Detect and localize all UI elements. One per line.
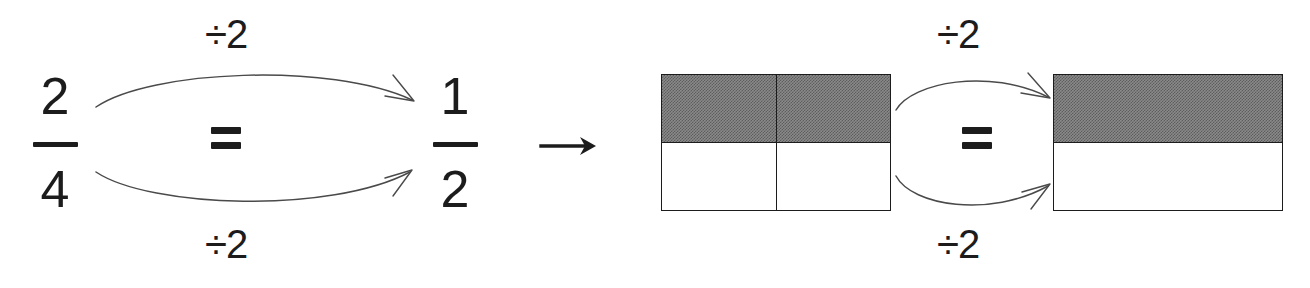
- transition-arrow: [541, 137, 596, 155]
- model-row-unshaded: [1054, 143, 1282, 210]
- left-top-divide-label: ÷2: [205, 14, 247, 54]
- model-cell-shaded-1: [1054, 75, 1282, 142]
- model-cell-shaded-2: [777, 75, 891, 142]
- fraction-equivalence-diagram: ÷2 2 4 1 2 ÷2 ÷2: [0, 0, 1310, 288]
- model-cell-shaded-1: [662, 75, 777, 142]
- model-row-shaded: [1054, 75, 1282, 143]
- numerator-divide-arrow: [96, 75, 414, 107]
- denominator-divide-arrow: [96, 170, 412, 201]
- left-fraction-bar: [33, 142, 78, 147]
- two-fourths-area-model: [661, 74, 891, 211]
- left-fraction-numerator: 2: [25, 70, 85, 122]
- right-top-divide-label: ÷2: [937, 14, 979, 54]
- left-bottom-divide-label: ÷2: [205, 224, 247, 264]
- right-bottom-divide-label: ÷2: [937, 224, 979, 264]
- symbolic-equals-sign: [211, 127, 241, 153]
- model-cell-unshaded-1: [1054, 143, 1282, 210]
- right-fraction-denominator: 2: [425, 163, 485, 215]
- model-columns-divide-arrow: [896, 73, 1050, 110]
- equals-bar-bottom: [962, 142, 992, 149]
- model-row-unshaded: [662, 143, 890, 210]
- left-fraction-denominator: 4: [25, 163, 85, 215]
- model-cell-unshaded-1: [662, 143, 777, 210]
- model-rows-divide-arrow: [896, 176, 1050, 209]
- right-fraction-bar: [433, 142, 478, 147]
- equals-bar-bottom: [211, 142, 241, 149]
- equals-bar-top: [211, 127, 241, 134]
- right-fraction-numerator: 1: [425, 70, 485, 122]
- one-half-area-model: [1053, 74, 1283, 211]
- visual-equals-sign: [962, 127, 992, 153]
- model-cell-unshaded-2: [777, 143, 891, 210]
- equals-bar-top: [962, 127, 992, 134]
- model-row-shaded: [662, 75, 890, 143]
